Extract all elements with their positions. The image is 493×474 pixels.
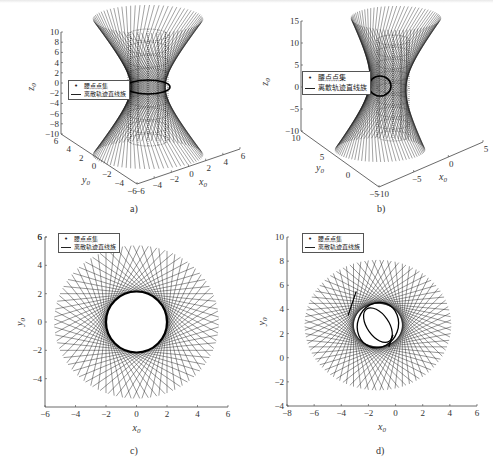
svg-text:0: 0 [280, 353, 285, 363]
svg-text:−8: −8 [49, 119, 59, 129]
legend-line-label: 离散轨迹直线族 [318, 243, 360, 251]
svg-text:0: 0 [55, 78, 60, 88]
svg-text:−10: −10 [375, 189, 390, 199]
svg-text:10: 10 [275, 232, 285, 242]
svg-text:−4: −4 [152, 180, 162, 190]
legend-point-label: 腰点点集 [74, 235, 98, 243]
svg-text:−6: −6 [49, 109, 59, 119]
svg-text:8: 8 [55, 37, 60, 47]
legend-panel-d: •腰点点集 离散轨迹直线族 [302, 233, 364, 253]
legend-point-label: 腰点点集 [318, 73, 346, 83]
y0-axis-label: y0 [256, 317, 269, 326]
legend-line-label: 离散轨迹直线族 [74, 243, 116, 251]
svg-text:−6: −6 [40, 409, 50, 419]
y0-axis-label: y0 [81, 174, 90, 187]
svg-text:4: 4 [66, 144, 71, 154]
svg-text:10: 10 [292, 133, 302, 143]
svg-text:10: 10 [290, 38, 300, 48]
legend-panel-c: •腰点点集 离散轨迹直线族 [58, 233, 120, 253]
legend-panel-a: •腰点点集 离散轨迹直线族 [68, 80, 130, 100]
point-marker-icon: • [61, 235, 71, 243]
svg-text:4: 4 [224, 157, 229, 167]
svg-text:5: 5 [320, 152, 325, 162]
svg-text:−4: −4 [336, 408, 346, 418]
legend-panel-b: •腰点点集 离散轨迹直线族 [302, 71, 371, 95]
svg-text:−4: −4 [71, 409, 81, 419]
panel-a-3d-plot: −10−8−6−4−20246810−6−4−20246−6−4−20246y0… [25, 5, 246, 196]
svg-text:4: 4 [448, 408, 453, 418]
y0-axis-label: y0 [315, 162, 324, 175]
svg-text:6: 6 [54, 136, 59, 146]
z0-axis-label: z0 [25, 83, 38, 92]
svg-text:4: 4 [280, 304, 285, 314]
panel-c-top-view-plot: −6−4−20246−4−202466x0y0 [14, 232, 231, 435]
legend-line-label: 离散轨迹直线族 [84, 90, 126, 98]
legend-point-label: 腰点点集 [318, 235, 342, 243]
svg-text:−4: −4 [49, 98, 59, 108]
svg-text:0: 0 [134, 409, 139, 419]
y0-axis-label: y0 [14, 318, 27, 327]
svg-text:−2: −2 [102, 169, 112, 179]
svg-text:−6: −6 [309, 408, 319, 418]
svg-text:−4: −4 [32, 374, 42, 384]
svg-text:6: 6 [55, 47, 60, 57]
svg-text:6: 6 [280, 280, 285, 290]
panel-b-3d-plot: −10−5051015−50510−10−505y0x0z0 [259, 6, 489, 199]
x0-axis-label: x0 [438, 171, 447, 184]
panel-d-top-view-plot: −8−6−4−20246−4−20246810x0y0 [256, 232, 480, 434]
svg-text:6: 6 [226, 409, 231, 419]
svg-text:−2: −2 [49, 88, 59, 98]
caption-b: b) [377, 203, 385, 214]
point-marker-icon: • [305, 73, 315, 83]
waist-point-set [106, 292, 167, 353]
svg-text:4: 4 [195, 409, 200, 419]
z0-axis-label: z0 [259, 78, 272, 87]
x0-axis-label: x0 [132, 422, 141, 435]
svg-text:5: 5 [484, 144, 489, 154]
svg-text:0: 0 [295, 82, 300, 92]
point-marker-icon: • [305, 235, 315, 243]
line-marker-icon [71, 94, 81, 95]
svg-text:−4: −4 [115, 178, 125, 188]
svg-text:2: 2 [420, 408, 425, 418]
svg-text:0: 0 [92, 161, 97, 171]
svg-text:−5: −5 [412, 174, 422, 184]
svg-text:4: 4 [55, 58, 60, 68]
svg-text:−4: −4 [274, 401, 284, 411]
svg-text:0: 0 [393, 408, 398, 418]
caption-c: c) [130, 445, 138, 456]
legend-point-label: 腰点点集 [84, 82, 108, 90]
svg-text:−2: −2 [32, 345, 42, 355]
svg-text:2: 2 [165, 409, 170, 419]
svg-text:−2: −2 [274, 377, 284, 387]
line-marker-icon [61, 247, 71, 248]
svg-text:6: 6 [38, 232, 43, 242]
line-marker-icon [305, 88, 315, 89]
svg-text:2: 2 [55, 68, 60, 78]
svg-text:5: 5 [295, 60, 300, 70]
svg-text:8: 8 [280, 256, 285, 266]
caption-d: d) [376, 445, 384, 456]
caption-a: a) [130, 203, 138, 214]
svg-text:15: 15 [290, 16, 300, 26]
legend-line-label: 离散轨迹直线族 [318, 83, 367, 93]
x0-axis-label: x0 [377, 421, 386, 434]
svg-text:0: 0 [449, 159, 454, 169]
svg-text:6: 6 [241, 151, 246, 161]
svg-text:4: 4 [38, 260, 43, 270]
svg-text:2: 2 [79, 153, 84, 163]
svg-text:2: 2 [206, 163, 211, 173]
svg-text:−2: −2 [364, 408, 374, 418]
svg-text:0: 0 [189, 169, 194, 179]
svg-text:−5: −5 [289, 104, 299, 114]
svg-text:0: 0 [38, 317, 43, 327]
svg-text:2: 2 [280, 329, 285, 339]
line-marker-icon [305, 247, 315, 248]
svg-text:6: 6 [475, 408, 480, 418]
svg-text:10: 10 [50, 27, 60, 37]
point-marker-icon: • [71, 82, 81, 90]
svg-text:−2: −2 [170, 174, 180, 184]
svg-text:0: 0 [346, 170, 351, 180]
svg-text:2: 2 [38, 289, 43, 299]
svg-text:−6: −6 [135, 186, 145, 196]
